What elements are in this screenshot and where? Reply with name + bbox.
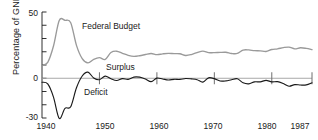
surplus-series-label: Surplus: [106, 62, 135, 72]
x-tick-label-1940: 1940: [28, 121, 64, 131]
x-tick-label-1960: 1960: [141, 121, 177, 131]
chart-plot-area: [0, 0, 318, 140]
chart-container: Percentage of GNP 50 0 -30 1940 1950 196…: [0, 0, 318, 140]
y-axis-title: Percentage of GNP: [11, 0, 21, 87]
federal-budget-series-label: Federal Budget: [82, 21, 140, 31]
y-tick-label-0: 0: [22, 73, 38, 83]
y-tick-label-50: 50: [22, 8, 38, 18]
x-tick-label-1950: 1950: [87, 121, 123, 131]
x-tick-label-1980: 1980: [249, 121, 285, 131]
x-tick-label-1970: 1970: [195, 121, 231, 131]
x-tick-label-1987: 1987: [283, 121, 317, 131]
deficit-series-label: Deficit: [84, 87, 108, 97]
